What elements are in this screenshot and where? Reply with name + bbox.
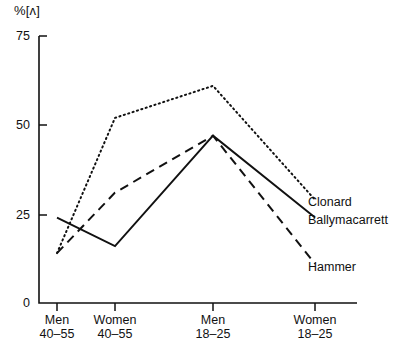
- x-tick-label-men-18-25: Men 18–25: [196, 313, 231, 340]
- x-tick-label-line2: 40–55: [40, 327, 75, 340]
- x-tick-label-line1: Men: [45, 313, 69, 327]
- series-line-hammer: [57, 136, 315, 264]
- x-tick-label-women-40-55: Women 40–55: [94, 313, 137, 340]
- y-tick-label-0: 0: [2, 297, 30, 310]
- series-label-hammer: Hammer: [308, 261, 356, 274]
- x-tick-label-line2: 18–25: [294, 327, 337, 340]
- series-label-ballymacarrett: Ballymacarrett: [308, 214, 388, 227]
- y-tick-label-50: 50: [2, 119, 30, 132]
- y-tick-label-25: 25: [2, 209, 30, 222]
- chart-series-group: [57, 86, 315, 264]
- y-axis-unit-label: %[ʌ]: [14, 3, 40, 18]
- x-tick-label-line2: 18–25: [196, 327, 231, 340]
- x-tick-label-men-40-55: Men 40–55: [40, 313, 75, 340]
- x-tick-label-line2: 40–55: [94, 327, 137, 340]
- x-tick-label-women-18-25: Women 18–25: [294, 313, 337, 340]
- chart-plot-area: [0, 0, 393, 340]
- x-tick-label-line1: Women: [94, 313, 137, 327]
- series-line-clonard: [57, 86, 315, 253]
- chart-figure: %[ʌ] 75 50 25 0 Men 40–55 Women 40–55 Me…: [0, 0, 393, 340]
- x-tick-label-line1: Men: [201, 313, 225, 327]
- y-tick-label-75: 75: [2, 30, 30, 43]
- series-label-clonard: Clonard: [308, 196, 352, 209]
- x-tick-label-line1: Women: [294, 313, 337, 327]
